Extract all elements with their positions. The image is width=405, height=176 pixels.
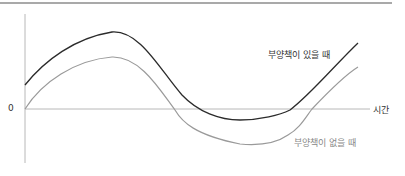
legend-with-stimulus: 부양책이 있을 때 (268, 48, 330, 61)
x-axis-label: 시간 (373, 103, 389, 116)
line-without-stimulus (25, 57, 358, 145)
chart-canvas (0, 0, 405, 176)
origin-label: 0 (8, 103, 14, 113)
line-with-stimulus (25, 32, 358, 120)
legend-without-stimulus: 부양책이 없을 때 (294, 136, 356, 149)
